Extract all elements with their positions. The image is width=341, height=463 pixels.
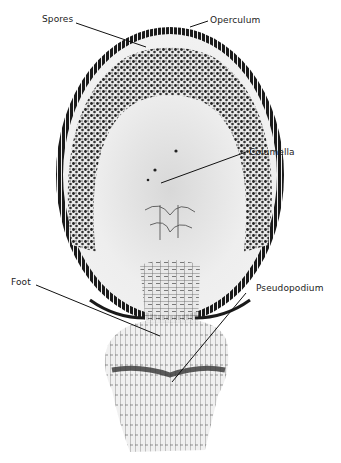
pseudopodium-tissue: [105, 320, 228, 452]
capsule-illustration: [0, 0, 341, 463]
label-spores: Spores: [42, 14, 73, 24]
label-pseudopodium: Pseudopodium: [256, 283, 324, 293]
label-columella: Columella: [249, 147, 295, 157]
label-operculum: Operculum: [210, 15, 260, 25]
capsule-diagram: Spores Operculum Columella Foot Pseudopo…: [0, 0, 341, 463]
foot-tissue: [140, 260, 200, 325]
label-foot: Foot: [11, 277, 31, 287]
